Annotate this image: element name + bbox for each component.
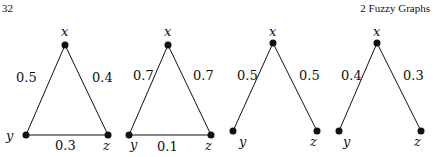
node-x bbox=[165, 42, 172, 49]
edge-xz-weight: 0.4 bbox=[92, 70, 113, 85]
node-x-label: x bbox=[164, 24, 172, 39]
node-z-label: z bbox=[102, 138, 110, 153]
node-y-label: y bbox=[129, 137, 138, 152]
edge-yz-weight: 0.3 bbox=[55, 138, 76, 153]
node-x-label: x bbox=[61, 24, 69, 39]
node-x bbox=[270, 40, 277, 47]
edge-xz-weight: 0.3 bbox=[403, 68, 424, 83]
node-x-label: x bbox=[373, 24, 381, 39]
fuzzy-graphs-figure: x y z 0.5 0.4 0.3 x y z 0.7 0.7 0.1 x y … bbox=[0, 0, 438, 157]
edge-yz-weight: 0.1 bbox=[157, 139, 178, 154]
graph-1: x y z 0.5 0.4 0.3 bbox=[5, 24, 113, 153]
node-z-label: z bbox=[204, 138, 212, 153]
node-y bbox=[23, 132, 30, 139]
edge-xy-weight: 0.5 bbox=[237, 68, 258, 83]
edge-xy-weight: 0.7 bbox=[133, 68, 154, 83]
graph-4: x y z 0.4 0.3 bbox=[336, 24, 425, 149]
graph-3: x y z 0.5 0.5 bbox=[230, 24, 321, 149]
edge-xy-weight: 0.4 bbox=[341, 68, 362, 83]
edge-xy-weight: 0.5 bbox=[16, 70, 37, 85]
node-y bbox=[230, 128, 237, 135]
node-y-label: y bbox=[5, 128, 14, 143]
node-y-label: y bbox=[238, 134, 247, 149]
node-z-label: z bbox=[413, 134, 421, 149]
edge-xz-weight: 0.5 bbox=[299, 68, 320, 83]
edge-xz-weight: 0.7 bbox=[193, 68, 214, 83]
node-y-label: y bbox=[342, 134, 351, 149]
node-x bbox=[374, 40, 381, 47]
node-z-label: z bbox=[309, 134, 317, 149]
node-x bbox=[62, 42, 69, 49]
node-y bbox=[336, 128, 343, 135]
node-x-label: x bbox=[269, 24, 277, 39]
graph-2: x y z 0.7 0.7 0.1 bbox=[126, 24, 215, 154]
